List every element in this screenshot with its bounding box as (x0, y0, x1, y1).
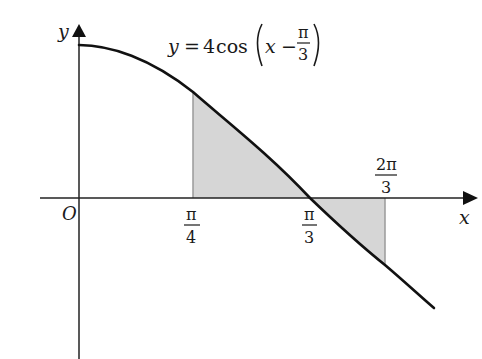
tick-numerator: 2π (376, 155, 397, 174)
function-graph: y x O y = 4 cos x − π 3 π 4 π 3 2π 3 (0, 0, 482, 359)
left-paren-icon (258, 24, 263, 66)
equation-arg-variable: x (265, 35, 276, 57)
equation-arg-operator: − (281, 35, 297, 57)
tick-label-two-pi-over-3: 2π 3 (375, 155, 397, 197)
y-axis-label: y (57, 20, 69, 42)
equation-function: cos (216, 35, 248, 57)
x-axis-arrow-icon (463, 191, 478, 205)
equation-lhs: y (167, 35, 179, 57)
x-axis-label: x (459, 206, 470, 228)
equation-equals: = (184, 35, 200, 57)
tick-numerator: π (186, 205, 197, 224)
tick-numerator: π (304, 205, 315, 224)
right-paren-icon (314, 24, 319, 66)
equation-label: y = 4 cos x − π 3 (167, 23, 319, 66)
tick-denominator: 3 (381, 178, 391, 197)
tick-label-pi-over-3: π 3 (302, 205, 317, 247)
equation-frac-numerator: π (298, 23, 309, 42)
tick-denominator: 4 (186, 228, 196, 247)
tick-denominator: 3 (304, 228, 314, 247)
equation-frac-denominator: 3 (298, 45, 308, 64)
equation-coefficient: 4 (203, 35, 215, 57)
origin-label: O (62, 203, 77, 224)
y-axis-arrow-icon (72, 24, 86, 37)
tick-label-pi-over-4: π 4 (184, 205, 200, 247)
